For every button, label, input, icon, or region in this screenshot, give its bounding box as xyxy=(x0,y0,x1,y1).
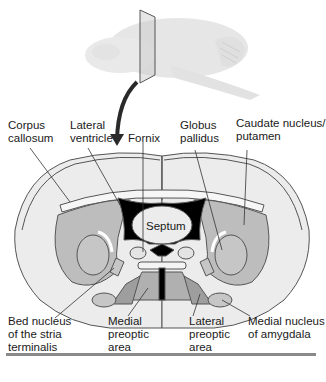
bottom-divider xyxy=(6,353,316,356)
whole-brain-illustration xyxy=(85,10,260,100)
coronal-section xyxy=(15,153,310,328)
label-bed-nucleus: Bed nucleus of the stria terminalis xyxy=(8,315,71,354)
label-corpus-callosum: Corpus callosum xyxy=(8,119,53,145)
section-plane xyxy=(140,10,155,83)
label-medial-amygdala: Medial nucleus of amygdala xyxy=(248,315,325,341)
label-lateral-ventricle: Lateral ventricle xyxy=(70,119,113,145)
label-globus-pallidus: Globus pallidus xyxy=(180,119,219,145)
label-caudate-putamen: Caudate nucleus/ putamen xyxy=(236,117,326,143)
label-lateral-preoptic: Lateral preoptic area xyxy=(189,315,230,354)
label-medial-preoptic: Medial preoptic area xyxy=(108,315,149,354)
label-septum: Septum xyxy=(146,220,186,233)
label-fornix: Fornix xyxy=(128,132,160,145)
